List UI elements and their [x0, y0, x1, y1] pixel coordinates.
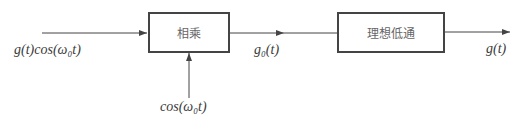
connection-lines — [0, 0, 524, 124]
multiplier-label: 相乘 — [177, 24, 201, 41]
output-signal-label: g(t) — [486, 41, 506, 57]
lowpass-label: 理想低通 — [367, 24, 415, 41]
input-signal-label: g(t)cos(ω₀t) — [14, 42, 81, 58]
carrier-signal-label: cos(ω₀t) — [160, 99, 207, 115]
lowpass-filter-block: 理想低通 — [337, 12, 445, 53]
intermediate-signal-label: g₀(t) — [254, 42, 279, 58]
multiplier-block: 相乘 — [148, 12, 230, 53]
